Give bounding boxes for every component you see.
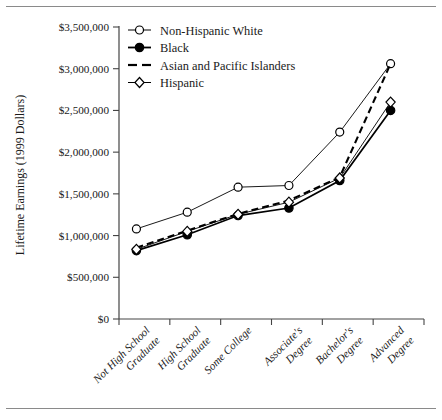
data-point-open-circle (132, 225, 140, 233)
series-asian-and-pacific-islanders (136, 64, 390, 248)
legend-item-label: Hispanic (160, 76, 205, 90)
y-axis-tick-label: $3,000,000 (59, 63, 110, 75)
y-axis-tick-label: $0 (98, 313, 110, 325)
y-axis-tick-label: $2,000,000 (59, 146, 110, 158)
data-point-open-circle (183, 208, 191, 216)
data-point-open-circle (285, 182, 293, 190)
series-line (136, 64, 390, 248)
legend-item-label: Non-Hispanic White (160, 24, 263, 38)
series-line (136, 110, 390, 250)
figure-container: $0$500,000$1,000,000$1,500,000$2,000,000… (0, 0, 442, 420)
legend-item-label: Black (160, 41, 190, 55)
legend-item-hispanic[interactable]: Hispanic (128, 76, 205, 90)
x-axis-tick-label: Associate'sDegree (260, 323, 315, 378)
data-point-open-circle (234, 183, 242, 191)
y-axis-tick-label: $3,500,000 (59, 21, 110, 33)
data-point-open-circle (136, 26, 144, 34)
chart-legend: Non-Hispanic WhiteBlackAsian and Pacific… (128, 24, 295, 91)
y-axis-title: Lifetime Earnings (1999 Dollars) (13, 95, 27, 255)
x-axis-tick-label: Some College (201, 324, 253, 376)
data-point-open-circle (336, 128, 344, 136)
legend-item-non-hispanic-white[interactable]: Non-Hispanic White (128, 24, 263, 38)
series-black (132, 106, 395, 255)
data-point-filled-circle (135, 43, 143, 51)
series-hispanic (132, 97, 395, 254)
x-axis: Not High SchoolGraduateHigh SchoolGradua… (90, 319, 424, 396)
data-point-open-diamond (135, 78, 144, 88)
y-axis-tick-label: $1,000,000 (59, 230, 110, 242)
x-axis-tick-label: Bachelor'sDegree (313, 323, 366, 376)
y-axis-tick-label: $500,000 (67, 271, 109, 283)
data-point-open-circle (387, 60, 395, 68)
legend-item-asian-and-pacific-islanders[interactable]: Asian and Pacific Islanders (128, 59, 295, 73)
y-axis-tick-label: $2,500,000 (59, 104, 110, 116)
data-point-open-diamond (386, 97, 395, 107)
x-axis-tick-label: High SchoolGraduate (154, 324, 212, 382)
legend-item-label: Asian and Pacific Islanders (160, 59, 295, 73)
svg-text:Some College: Some College (201, 324, 253, 376)
legend-item-black[interactable]: Black (128, 41, 190, 55)
x-axis-tick-label: AdvancedDegree (366, 324, 417, 375)
x-axis-tick-label: Not High SchoolGraduate (90, 324, 162, 396)
series-line (136, 102, 390, 249)
y-axis-tick-label: $1,500,000 (59, 188, 110, 200)
line-chart: $0$500,000$1,000,000$1,500,000$2,000,000… (0, 0, 442, 420)
y-axis: $0$500,000$1,000,000$1,500,000$2,000,000… (59, 21, 119, 325)
